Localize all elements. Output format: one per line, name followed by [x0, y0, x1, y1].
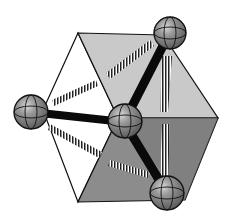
atom-top-right: [154, 17, 186, 49]
atom-center: [108, 104, 142, 138]
atom-bottom-right: [150, 176, 184, 210]
tetrahedral-cube-diagram: [0, 0, 234, 223]
diagram-canvas: [0, 0, 234, 223]
atom-left: [14, 95, 48, 129]
